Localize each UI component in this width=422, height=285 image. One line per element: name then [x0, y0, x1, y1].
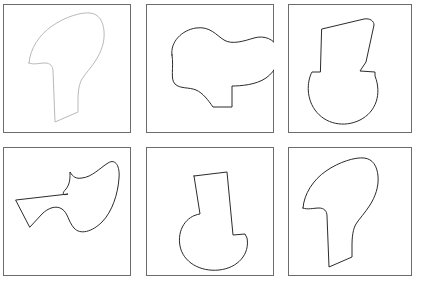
panel-5-figure	[146, 147, 274, 276]
panel-3-figure	[288, 4, 412, 133]
panel-1[interactable]	[3, 4, 131, 133]
panel-4-figure	[3, 147, 131, 276]
arrow-wing-shape	[16, 162, 119, 232]
stimulus-sheet	[0, 0, 422, 285]
panel-1-figure	[3, 4, 131, 133]
blob-with-tab-shape	[172, 28, 274, 107]
panel-2-figure	[146, 4, 274, 133]
boot-anvil-shape-dark	[303, 158, 378, 267]
panel-2[interactable]	[146, 4, 274, 133]
spoon-j-shape-rotated	[179, 172, 247, 270]
panel-4[interactable]	[3, 147, 131, 276]
panel-3[interactable]	[288, 4, 412, 133]
spoon-j-shape-upright	[308, 19, 378, 124]
panel-5[interactable]	[146, 147, 274, 276]
panel-6[interactable]	[288, 147, 412, 276]
panel-6-figure	[288, 147, 412, 276]
boot-anvil-shape-light	[29, 13, 104, 122]
